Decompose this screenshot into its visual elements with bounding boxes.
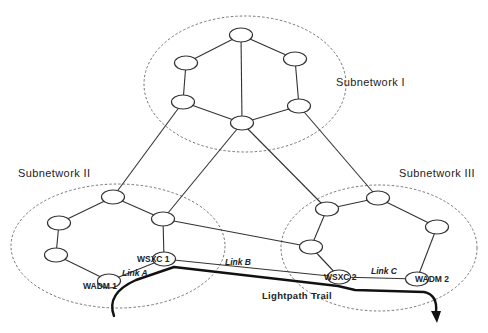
node-n2_ll xyxy=(45,248,68,262)
link-n2_ur-n3_lm xyxy=(163,219,311,247)
link-label-a: Link A xyxy=(122,268,148,278)
subnetwork-label-3: Subnetwork III xyxy=(399,167,475,179)
node-n2_ur xyxy=(152,212,175,226)
node-n1_bot xyxy=(231,116,254,130)
network-diagram: Subnetwork I Subnetwork II Subnetwork II… xyxy=(0,0,488,333)
node-n3_lm xyxy=(300,240,323,254)
node-n1_ul xyxy=(175,56,198,70)
subnetwork-label-1: Subnetwork I xyxy=(336,76,405,88)
node-n2_top xyxy=(102,190,125,204)
link-n3_r-wadm2 xyxy=(417,227,437,279)
lightpath-trail-label: Lightpath Trail xyxy=(262,290,332,301)
link-n1_lr-n3_top xyxy=(299,106,378,198)
node-n1_top xyxy=(230,28,253,42)
link-n1_top-n1_bot xyxy=(241,35,242,123)
subnetwork-label-2: Subnetwork II xyxy=(18,167,90,179)
node-label-wsxc2: WSXC 2 xyxy=(324,272,357,282)
node-n1_ur xyxy=(284,52,307,66)
node-n1_ll xyxy=(172,95,195,109)
node-n3_r xyxy=(426,220,449,234)
node-n1_lr xyxy=(288,99,311,113)
node-n2_lu xyxy=(48,216,71,230)
node-label-wadm1: WADM 1 xyxy=(83,281,117,291)
trail-arrowhead-icon xyxy=(431,311,441,323)
network-links xyxy=(56,35,437,281)
network-nodes xyxy=(45,28,449,288)
link-label-b: Link B xyxy=(225,257,251,267)
link-n1_bot-n2_ur xyxy=(163,123,242,219)
link-n1_bot-n3_ul xyxy=(242,123,327,209)
node-label-wadm2: WADM 2 xyxy=(415,274,449,284)
node-n3_ul xyxy=(316,202,339,216)
link-label-c: Link C xyxy=(371,266,398,276)
node-label-wsxc1: WSXC 1 xyxy=(137,254,170,264)
node-n3_top xyxy=(367,191,390,205)
link-n1_ll-n2_top xyxy=(113,102,183,197)
